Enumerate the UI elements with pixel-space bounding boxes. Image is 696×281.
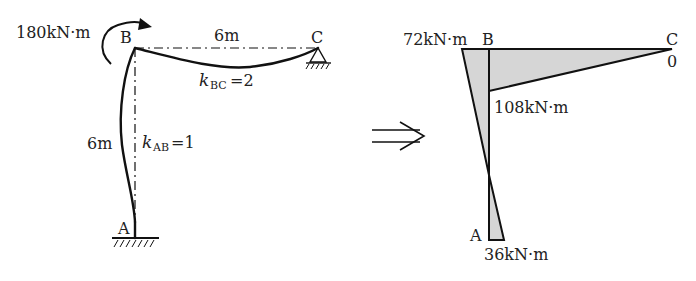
bmd-node-a-label: A <box>469 226 482 245</box>
bmd-column-upper <box>462 49 489 175</box>
fixed-support-icon <box>112 238 159 247</box>
span-bc-label: 6m <box>214 26 239 45</box>
moment-b-column-label: 72kN·m <box>403 30 467 49</box>
moment-c-label: 0 <box>667 52 677 71</box>
node-c-label: C <box>311 28 323 47</box>
frame-structure: 180kN·m B C A 6m 6m k BC =2 k AB =1 <box>16 18 331 247</box>
bmd-node-c-label: C <box>666 30 678 49</box>
node-b-label: B <box>120 28 132 47</box>
node-a-label: A <box>117 219 130 238</box>
stiffness-bc-label: k BC =2 <box>199 70 254 92</box>
moment-a-label: 36kN·m <box>484 245 548 264</box>
bmd-beam <box>489 49 672 91</box>
applied-moment-label: 180kN·m <box>16 23 91 42</box>
moment-b-beam-label: 108kN·m <box>494 98 569 117</box>
svg-text:=1: =1 <box>171 133 195 152</box>
svg-text:BC: BC <box>210 79 227 92</box>
deformed-beam-bc <box>135 48 318 67</box>
svg-text:k: k <box>142 132 152 152</box>
bmd-column-lower <box>489 175 504 240</box>
bmd-node-b-label: B <box>482 30 494 49</box>
diagram-canvas: 180kN·m B C A 6m 6m k BC =2 k AB =1 72kN… <box>0 0 696 281</box>
svg-text:=2: =2 <box>230 71 254 90</box>
span-ab-label: 6m <box>87 134 112 153</box>
svg-text:k: k <box>199 70 209 90</box>
deformed-column-ab <box>121 48 135 222</box>
moment-arrowhead-icon <box>138 18 152 30</box>
bending-moment-diagram: 72kN·m B C 0 108kN·m A 36kN·m <box>403 30 678 264</box>
svg-text:AB: AB <box>152 141 169 154</box>
stiffness-ab-label: k AB =1 <box>142 132 195 154</box>
implies-arrow-icon <box>372 122 424 150</box>
